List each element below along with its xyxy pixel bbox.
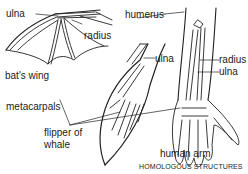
- label-radius-human: radius: [219, 54, 246, 65]
- human-arm-drawing: [172, 8, 239, 167]
- label-ulna-whale: ulna: [155, 53, 174, 64]
- homology-illustration: [0, 0, 248, 174]
- label-bats-wing: bat's wing: [5, 70, 49, 81]
- label-humerus: humerus: [125, 9, 164, 20]
- label-ulna-human: ulna: [219, 66, 238, 77]
- label-flipper-line2: whale: [44, 139, 70, 150]
- label-radius-bat: radius: [84, 30, 111, 41]
- figure-caption: HOMOLOGOUS STRUCTURES: [139, 163, 243, 170]
- label-flipper-line1: flipper of: [44, 127, 82, 138]
- label-human-arm: human arm: [160, 148, 211, 159]
- label-metacarpals: metacarpals: [6, 101, 60, 112]
- label-ulna-bat: ulna: [6, 8, 25, 19]
